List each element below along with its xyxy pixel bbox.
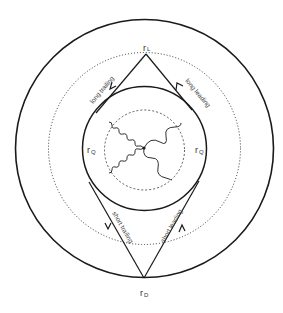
label-r-Q-right: rQ: [195, 145, 204, 155]
core-center-point: [142, 146, 145, 149]
label-r-Q-left: rQ: [87, 145, 96, 155]
wavy-paths: [109, 122, 181, 180]
label-r-D: rD: [140, 288, 149, 298]
arrow-long-leading-icon: [176, 83, 183, 90]
label-short-leading: short leading: [159, 207, 185, 244]
arrow-short-leading-icon: [179, 225, 185, 232]
label-r-L: rL: [143, 43, 151, 53]
orbit-diagram: rL rD rQ rQ long trailing long leading s…: [0, 0, 283, 313]
short-trailing-line: [89, 182, 144, 278]
label-long-trailing: long trailing: [88, 74, 116, 105]
core-dashed-circle: [105, 110, 185, 190]
arrow-short-trailing-icon: [105, 223, 111, 229]
